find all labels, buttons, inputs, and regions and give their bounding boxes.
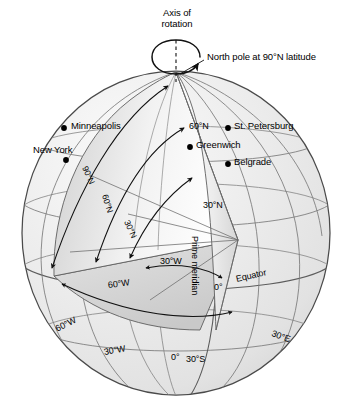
- city-label-greenwich: Greenwich: [196, 140, 241, 151]
- longitude-label-0: 0°: [171, 352, 179, 362]
- north-pole-label: North pole at 90°N latitude: [207, 52, 316, 63]
- city-dot-belgrade: [225, 161, 231, 167]
- city-dot-greenwich: [187, 144, 193, 150]
- latitude-label-30N: 30°N: [203, 200, 223, 210]
- city-label-new-york: New York: [33, 145, 72, 156]
- interior-arc-label-30W: 30°W: [160, 256, 182, 266]
- city-label-minneapolis: Minneapolis: [71, 121, 121, 132]
- latitude-label-30S: 30°S: [186, 354, 205, 364]
- city-dot-new-york: [63, 157, 69, 163]
- globe-diagram: Axis of rotation North pole at 90°N lati…: [0, 0, 349, 413]
- axis-of-rotation-line2: rotation: [137, 19, 217, 30]
- axis-of-rotation-label: Axis of rotation: [137, 8, 217, 29]
- city-label-belgrade: Belgrade: [234, 157, 271, 168]
- latitude-label-0: 0°: [214, 282, 222, 292]
- city-dot-minneapolis: [61, 125, 67, 131]
- prime-meridian-label: Prime meridian: [190, 236, 200, 295]
- city-label-st-petersburg: St. Petersburg: [234, 121, 293, 132]
- city-dot-st-petersburg: [225, 125, 231, 131]
- latitude-label-60N: 60°N: [189, 121, 209, 131]
